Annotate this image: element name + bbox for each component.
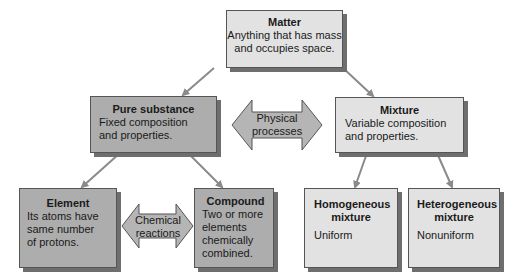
compound-desc-line-4: combined.: [202, 247, 273, 260]
arrow-mixture-to-homogeneous: [355, 153, 367, 187]
element-desc-line-2: same number: [27, 223, 116, 236]
arrow-pure-substance-to-element: [82, 153, 120, 187]
pure-substance-desc-line-1: Fixed composition: [99, 116, 216, 129]
element-desc-line-1: Its atoms have: [27, 210, 116, 223]
physical-label-line-1: Physical: [252, 112, 302, 125]
heterogeneous-desc: Nonuniform: [417, 229, 499, 242]
homogeneous-desc: Uniform: [314, 229, 397, 242]
element-title: Element: [27, 197, 116, 210]
heterogeneous-title-line-1: Heterogeneous: [417, 198, 499, 211]
compound-box: Compound Two or more elements chemically…: [194, 188, 274, 268]
mixture-desc-line-2: and properties.: [345, 130, 463, 143]
matter-title: Matter: [227, 16, 342, 29]
pure-substance-title: Pure substance: [99, 103, 216, 116]
arrow-mixture-to-heterogeneous: [437, 153, 452, 187]
mixture-desc-line-1: Variable composition: [345, 117, 463, 130]
heterogeneous-title-line-2: mixture: [417, 211, 499, 224]
compound-desc-line-2: elements: [202, 221, 273, 234]
physical-processes-label: Physical processes: [252, 112, 302, 138]
homogeneous-mixture-box: Homogeneous mixture Uniform: [304, 188, 398, 268]
chemical-label-line-1: Chemical: [130, 214, 186, 227]
homogeneous-title-line-1: Homogeneous: [314, 198, 397, 211]
chemical-label-line-2: reactions: [130, 227, 186, 240]
matter-box: Matter Anything that has mass and occupi…: [226, 10, 343, 68]
heterogeneous-mixture-box: Heterogeneous mixture Nonuniform: [408, 188, 500, 268]
matter-desc-line-2: and occupies space.: [227, 42, 342, 55]
arrow-pure-substance-to-compound: [188, 153, 222, 187]
chemical-reactions-label: Chemical reactions: [130, 214, 186, 240]
physical-label-line-2: processes: [252, 125, 302, 138]
compound-desc-line-1: Two or more: [202, 208, 273, 221]
pure-substance-box: Pure substance Fixed composition and pro…: [90, 96, 217, 153]
pure-substance-desc-line-2: and properties.: [99, 129, 216, 142]
mixture-title: Mixture: [345, 104, 463, 117]
element-desc-line-3: of protons.: [27, 236, 116, 249]
arrow-matter-to-mixture: [343, 68, 373, 96]
matter-desc-line-1: Anything that has mass: [227, 29, 342, 42]
element-box: Element Its atoms have same number of pr…: [19, 188, 117, 268]
mixture-box: Mixture Variable composition and propert…: [335, 97, 464, 153]
arrow-matter-to-pure-substance: [183, 68, 214, 95]
compound-desc-line-3: chemically: [202, 234, 273, 247]
homogeneous-title-line-2: mixture: [314, 211, 397, 224]
compound-title: Compound: [202, 195, 273, 208]
